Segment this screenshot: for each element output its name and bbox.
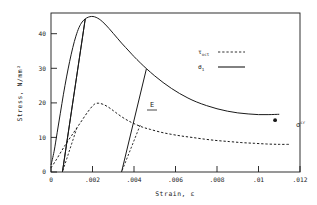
x-tick-1: .002: [85, 176, 100, 183]
x-tick-2: .004: [127, 176, 142, 183]
x-axis-ticklabels: 0 .002 .004 .006 .008 .01 .012: [49, 176, 308, 183]
x-tick-5: .01: [253, 176, 264, 183]
unload-line-2-sigma: [122, 69, 147, 172]
x-tick-4: .008: [210, 176, 225, 183]
y-tick-1: 10: [39, 134, 47, 141]
y-tick-2: 20: [39, 99, 47, 106]
svg-text:E: E: [150, 101, 154, 109]
curve-tau-oct: [51, 103, 290, 168]
plot-frame: [51, 13, 300, 172]
sigma-cr-superscript: cr: [300, 120, 306, 125]
chart-figure: 0 .002 .004 .006 .008 .01 .012 0 10 20 3…: [0, 0, 317, 205]
x-tick-3: .006: [168, 176, 183, 183]
legend-entry-1-label: σ1: [198, 63, 205, 72]
data-curves: [51, 16, 290, 172]
unload-line-1-tau: [62, 128, 77, 172]
x-axis-title: Strain, ε: [155, 190, 195, 198]
legend-entry-0-label: τoct: [198, 48, 210, 57]
stress-strain-plot: 0 .002 .004 .006 .008 .01 .012 0 10 20 3…: [0, 0, 317, 205]
sigma-cr-annotation: σcr: [296, 120, 306, 129]
legend: τoct σ1: [198, 48, 245, 72]
x-tick-6: .012: [293, 176, 308, 183]
x-tick-0: 0: [49, 176, 53, 183]
y-tick-4: 40: [39, 30, 47, 37]
sigma-cr-marker: [273, 118, 277, 122]
y-axis-title: Stress, N/mm²: [16, 64, 24, 121]
legend-1-subscript: 1: [202, 67, 205, 72]
x-axis-ticks: [51, 166, 300, 172]
y-tick-3: 30: [39, 65, 47, 72]
legend-0-subscript: oct: [202, 52, 210, 57]
y-axis-ticklabels: 0 10 20 30 40: [39, 30, 47, 175]
svg-text:σcr: σcr: [296, 120, 306, 129]
modulus-E-annotation: E: [147, 101, 157, 110]
y-tick-0: 0: [42, 168, 46, 175]
